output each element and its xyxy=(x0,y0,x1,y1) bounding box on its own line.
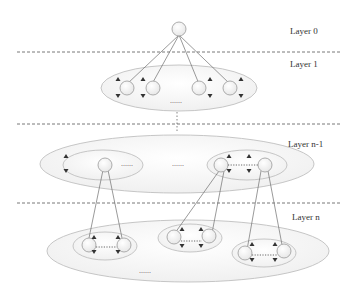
layer-label-n-1: Layer n-1 xyxy=(288,139,323,149)
layern-node-2a xyxy=(167,230,181,244)
layern1-node-left xyxy=(98,158,112,172)
layern-group-ellipsis: ...... xyxy=(139,266,151,275)
layern1-node-right-b xyxy=(258,158,272,172)
layer1-node-3 xyxy=(192,81,206,95)
layern1-group-ellipsis: ...... xyxy=(172,159,184,168)
layern-node-2b xyxy=(202,229,216,243)
layer-label-0: Layer 0 xyxy=(290,26,318,36)
layer1-node-1 xyxy=(120,81,134,95)
layern-node-3b xyxy=(277,244,291,258)
layer1-ellipsis: ...... xyxy=(170,96,182,105)
layer1-node-4 xyxy=(223,81,237,95)
layer-label-n: Layer n xyxy=(292,212,320,222)
layern1-cluster-ellipsis: ...... xyxy=(121,159,133,168)
layer-label-1: Layer 1 xyxy=(290,59,318,69)
layern-node-1a xyxy=(82,238,96,252)
layern-node-1b xyxy=(117,238,131,252)
layer1-node-2 xyxy=(146,81,160,95)
root-node xyxy=(172,22,186,36)
layern-node-3a xyxy=(238,246,252,260)
layern1-node-right-a xyxy=(214,158,228,172)
